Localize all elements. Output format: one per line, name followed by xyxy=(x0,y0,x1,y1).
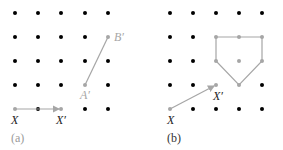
grid-dot xyxy=(36,59,40,63)
point-x-b xyxy=(168,107,172,111)
grid-dot xyxy=(237,107,241,111)
grid-dot xyxy=(59,83,63,87)
grid-dot xyxy=(106,59,110,63)
grid-dot xyxy=(13,59,17,63)
grid-dot xyxy=(36,83,40,87)
point-a-prime xyxy=(83,83,87,87)
point-b-prime xyxy=(106,35,110,39)
label-x-a: X xyxy=(10,113,19,127)
grid-dot xyxy=(59,59,63,63)
grid-dot xyxy=(191,83,195,87)
grid-dot xyxy=(83,59,87,63)
grid-dot xyxy=(59,35,63,39)
segment-a-prime-b-prime xyxy=(85,37,108,85)
grid-dot xyxy=(191,11,195,15)
label-x-prime-a: X′ xyxy=(55,113,66,127)
grid-dot xyxy=(191,35,195,39)
grid-dot xyxy=(13,83,17,87)
grid-dot xyxy=(214,107,218,111)
pentagon-vertices xyxy=(214,35,264,87)
grid-dot xyxy=(168,59,172,63)
point-x-prime-a xyxy=(59,107,63,111)
label-b-prime: B′ xyxy=(114,30,124,44)
dot-grid-a xyxy=(13,11,110,111)
grid-dot xyxy=(83,107,87,111)
grid-dot xyxy=(237,11,241,15)
grid-dot xyxy=(191,107,195,111)
grid-dot xyxy=(59,11,63,15)
grid-dot xyxy=(36,35,40,39)
caption-b: (b) xyxy=(167,131,181,145)
grid-dot xyxy=(106,107,110,111)
grid-dot xyxy=(260,11,264,15)
grid-dot xyxy=(214,11,218,15)
label-x-b: X xyxy=(166,113,175,127)
diagram: X X′ A′ B′ (a) X X′ (b) xyxy=(0,0,283,150)
grid-dot xyxy=(83,11,87,15)
grid-dot xyxy=(168,35,172,39)
point-x-a xyxy=(13,107,17,111)
grid-dot xyxy=(260,83,264,87)
caption-a: (a) xyxy=(11,131,24,145)
grid-dot xyxy=(83,35,87,39)
grid-dot xyxy=(260,107,264,111)
translation-vector-b xyxy=(170,86,214,109)
label-x-prime-b: X′ xyxy=(212,89,223,103)
grid-dot xyxy=(191,59,195,63)
grid-dot xyxy=(106,83,110,87)
grid-dot xyxy=(168,11,172,15)
grid-dot xyxy=(13,35,17,39)
point-x-prime-b xyxy=(214,83,218,87)
grid-dot xyxy=(106,11,110,15)
grid-dot xyxy=(36,11,40,15)
grid-dot xyxy=(13,11,17,15)
label-a-prime: A′ xyxy=(79,88,90,102)
grid-dot xyxy=(168,83,172,87)
